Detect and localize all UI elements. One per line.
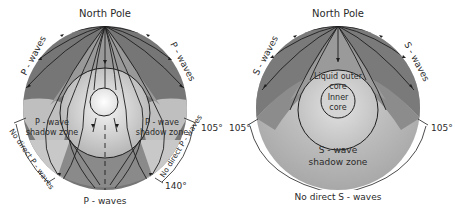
no-direct-s-label: No direct S - waves [295, 192, 382, 202]
bottom-p-waves-label: P - waves [84, 196, 127, 206]
s-angle-left-label: 105° [229, 123, 251, 133]
p-wave-diagram: North Pole P - waves P - waves P - wave … [7, 8, 222, 206]
p-shadow-right-line1: P - wave [145, 118, 179, 127]
angle-105-label: 105° [201, 123, 223, 133]
s-wave-diagram: North Pole S - waves S - waves Liquid ou… [229, 8, 453, 202]
outer-core-label-line1: Liquid outer [314, 72, 363, 81]
seismic-wave-diagram: North Pole P - waves P - waves P - wave … [0, 0, 455, 215]
inner-core-label-line1: Inner [328, 93, 349, 102]
s-shadow-line1: S - wave [319, 145, 358, 155]
outer-core-label-line2: core [329, 82, 346, 91]
s-shadow-line2: shadow zone [309, 157, 368, 167]
p-shadow-left-line2: shadow zone [26, 128, 78, 137]
p-shadow-right-line2: shadow zone [136, 128, 188, 137]
p-shadow-left-line1: P - wave [35, 118, 69, 127]
left-north-pole-label: North Pole [79, 8, 131, 19]
inner-core-label-line2: core [329, 103, 346, 112]
right-north-pole-label: North Pole [312, 8, 364, 19]
s-angle-right-label: 105° [431, 123, 453, 133]
angle-140-label: 140° [165, 181, 187, 191]
inner-core [90, 88, 118, 116]
